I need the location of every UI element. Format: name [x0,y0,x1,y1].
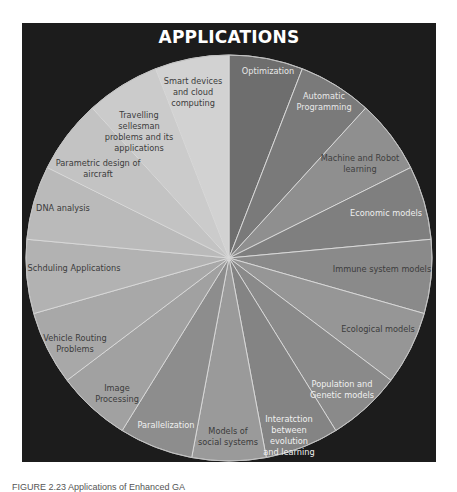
slice-label: DNA analysis [3,203,123,214]
slice-label: Economic models [326,208,446,219]
slice-label: Automatic Programming [264,91,384,113]
slice-label: Machine and Robot learning [300,153,420,175]
slice-label: Population and Genetic models [282,379,402,401]
slice-label: Ecological models [318,324,438,335]
slice-label: Vehicle Routing Problems [15,333,135,355]
slice-label: Schduling Applications [14,263,134,274]
figure-caption: FIGURE 2.23 Applications of Enhanced GA [12,482,185,492]
slice-label: Parametric design of aircraft [38,158,158,180]
slice-label: Image Processing [57,383,177,405]
slice-label: Immune system models [322,264,442,275]
slice-label: Parallelization [106,420,226,431]
slice-label: Smart devices and cloud computing [133,76,253,109]
slice-label: Travelling sellesman problems and its ap… [79,110,199,154]
